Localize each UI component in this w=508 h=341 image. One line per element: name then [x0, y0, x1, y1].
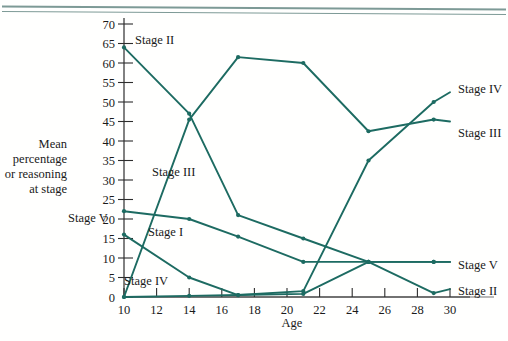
data-point-stage-iv-25	[366, 158, 370, 162]
x-tick-labels: 1012141618202224262830	[118, 303, 457, 317]
data-point-stage-i-21	[301, 260, 305, 264]
data-point-stage-v-29	[432, 260, 436, 264]
y-tick-label: 65	[103, 37, 116, 51]
y-tick-label: 10	[103, 252, 116, 266]
y-axis-title-line-2: percentage	[13, 152, 68, 166]
y-axis-title-line-4: at stage	[29, 182, 67, 196]
y-tick-label: 45	[103, 115, 116, 129]
x-tick-label: 14	[183, 303, 196, 317]
series-label-left-stage-iv: Stage IV	[124, 274, 168, 288]
data-point-stage-v-21	[301, 292, 305, 296]
data-point-stage-ii-14	[187, 112, 191, 116]
data-point-stage-iii-14	[187, 117, 191, 121]
x-tick-label: 28	[411, 303, 424, 317]
series-label-left-stage-ii: Stage II	[135, 33, 174, 47]
data-point-stage-v-14	[187, 294, 191, 298]
series-label-right-stage-v: Stage V	[458, 258, 498, 272]
data-point-stage-iv-29	[432, 100, 436, 104]
data-point-stage-ii-21	[301, 236, 305, 240]
data-point-stage-ii-17	[236, 213, 240, 217]
data-point-stage-iv-10	[122, 233, 126, 237]
data-point-stage-iii-25	[366, 129, 370, 133]
series-line-stage-iv	[124, 92, 450, 295]
series-label-right-stage-ii: Stage II	[458, 284, 497, 298]
x-tick-label: 20	[281, 303, 294, 317]
x-tick-label: 24	[346, 303, 359, 317]
x-tick-label: 12	[150, 303, 163, 317]
data-point-stage-v-17	[236, 293, 240, 297]
series-label-left-stage-v: Stage V	[68, 211, 108, 225]
data-point-stage-iii-21	[301, 61, 305, 65]
y-tick-label: 30	[103, 174, 116, 188]
series-label-right-stage-iv: Stage IV	[458, 82, 502, 96]
chart-svg: 0510152025303540455055606570 10121416182…	[0, 0, 508, 341]
y-tick-label: 60	[103, 57, 116, 71]
series-label-left-stage-i: Stage I	[148, 225, 183, 239]
data-point-stage-v-25	[366, 260, 370, 264]
data-point-stage-ii-29	[432, 291, 436, 295]
x-tick-label: 18	[248, 303, 261, 317]
y-tick-labels: 0510152025303540455055606570	[103, 18, 116, 305]
y-tick-label: 55	[103, 76, 116, 90]
figure-chart-moral-reasoning-by-age: 0510152025303540455055606570 10121416182…	[0, 0, 508, 341]
data-point-stage-iv-14	[187, 275, 191, 279]
y-axis-title-line-3: or reasoning	[5, 167, 68, 181]
y-tick-label: 35	[103, 154, 116, 168]
series-label-left-stage-iii: Stage III	[152, 165, 195, 179]
y-tick-label: 40	[103, 135, 116, 149]
y-tick-label: 15	[103, 232, 116, 246]
y-axis-title-line-1: Mean	[39, 137, 68, 151]
y-tick-label: 0	[109, 291, 115, 305]
y-tick-label: 70	[103, 18, 116, 32]
y-tick-label: 50	[103, 96, 116, 110]
top-decorative-rule	[2, 7, 506, 15]
data-point-stage-v-10	[122, 295, 126, 299]
y-tick-label: 25	[103, 193, 116, 207]
data-point-stage-i-14	[187, 217, 191, 221]
x-tick-label: 26	[379, 303, 392, 317]
series-label-right-stage-iii: Stage III	[458, 126, 501, 140]
x-axis-title: Age	[282, 316, 303, 330]
data-point-stage-iii-29	[432, 117, 436, 121]
data-point-stage-iii-17	[236, 55, 240, 59]
y-tick-label: 5	[109, 271, 115, 285]
x-tick-label: 16	[216, 303, 229, 317]
x-tick-label: 22	[313, 303, 326, 317]
data-point-stage-ii-10	[122, 45, 126, 49]
y-axis-title: Mean percentage or reasoning at stage	[5, 137, 68, 196]
x-tick-label: 30	[444, 303, 457, 317]
data-point-stage-i-10	[122, 209, 126, 213]
data-point-stage-i-17	[236, 234, 240, 238]
x-tick-label: 10	[118, 303, 131, 317]
